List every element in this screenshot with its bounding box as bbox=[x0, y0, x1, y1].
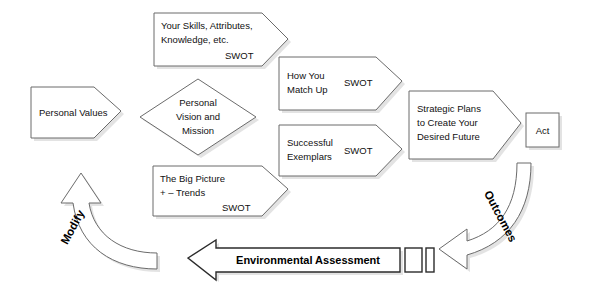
node-big-picture[interactable]: The Big Picture + – Trends SWOT bbox=[153, 166, 288, 216]
skills-line2: Knowledge, etc. bbox=[161, 34, 229, 45]
connector-outcomes[interactable]: Outcomes bbox=[439, 163, 534, 272]
assessment-tail-segment-2 bbox=[426, 248, 434, 272]
vision-line3: Mission bbox=[182, 125, 214, 136]
big-picture-line2: + – Trends bbox=[160, 187, 205, 198]
node-personal-vision[interactable]: Personal Vision and Mission bbox=[140, 79, 256, 155]
match-up-line2: Match Up bbox=[287, 84, 328, 95]
outcomes-arrow-shape bbox=[439, 163, 531, 269]
personal-values-label: Personal Values bbox=[39, 107, 108, 118]
exemplars-swot-tag: SWOT bbox=[344, 145, 373, 156]
big-picture-line1: The Big Picture bbox=[160, 173, 225, 184]
exemplars-line2: Exemplars bbox=[287, 151, 332, 162]
connector-environmental-assessment[interactable]: Environmental Assessment bbox=[188, 240, 434, 282]
skills-line1: Your Skills, Attributes, bbox=[161, 20, 253, 31]
assessment-tail-segment-1 bbox=[405, 248, 422, 272]
strategic-plans-line2: to Create Your bbox=[417, 117, 478, 128]
match-up-swot-tag: SWOT bbox=[344, 77, 373, 88]
connector-modify[interactable]: Modify bbox=[58, 173, 160, 272]
node-match-up[interactable]: How You Match Up SWOT bbox=[279, 57, 402, 110]
vision-line2: Vision and bbox=[176, 111, 220, 122]
match-up-line1: How You bbox=[287, 70, 325, 81]
diagram-canvas: Your Skills, Attributes, Knowledge, etc.… bbox=[0, 0, 596, 286]
environmental-assessment-label: Environmental Assessment bbox=[236, 254, 380, 266]
act-label: Act bbox=[536, 125, 550, 136]
node-act[interactable]: Act bbox=[526, 113, 559, 147]
exemplars-line1: Successful bbox=[287, 137, 333, 148]
node-skills[interactable]: Your Skills, Attributes, Knowledge, etc.… bbox=[154, 13, 288, 66]
big-picture-swot-tag: SWOT bbox=[222, 202, 251, 213]
strategic-plans-line3: Desired Future bbox=[417, 131, 480, 142]
node-exemplars[interactable]: Successful Exemplars SWOT bbox=[279, 125, 402, 176]
strategic-plans-line1: Strategic Plans bbox=[417, 103, 481, 114]
skills-swot-tag: SWOT bbox=[225, 50, 254, 61]
vision-line1: Personal bbox=[179, 97, 217, 108]
